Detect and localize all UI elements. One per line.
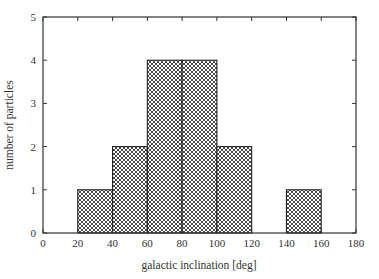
y-tick-label: 3 bbox=[31, 97, 37, 109]
histogram-bar bbox=[217, 147, 252, 233]
x-tick-label: 160 bbox=[313, 237, 330, 249]
x-tick-label: 40 bbox=[107, 237, 119, 249]
histogram-bars bbox=[78, 60, 321, 233]
histogram-chart: 020406080100120140160180 012345 galactic… bbox=[0, 0, 379, 279]
x-tick-label: 60 bbox=[142, 237, 154, 249]
y-tick-label: 2 bbox=[31, 141, 37, 153]
x-tick-label: 100 bbox=[209, 237, 226, 249]
x-tick-label: 180 bbox=[348, 237, 365, 249]
x-tick-labels: 020406080100120140160180 bbox=[40, 237, 365, 249]
histogram-bar bbox=[78, 190, 113, 233]
y-axis-label: number of particles bbox=[3, 80, 16, 170]
histogram-bar bbox=[286, 190, 321, 233]
y-tick-label: 5 bbox=[31, 11, 37, 23]
x-tick-label: 20 bbox=[72, 237, 84, 249]
y-tick-label: 1 bbox=[31, 184, 37, 196]
y-tick-labels: 012345 bbox=[31, 11, 37, 239]
histogram-bar bbox=[147, 60, 182, 233]
x-axis-label: galactic inclination [deg] bbox=[142, 259, 257, 272]
histogram-bar bbox=[182, 60, 217, 233]
x-tick-label: 120 bbox=[243, 237, 260, 249]
y-tick-label: 4 bbox=[31, 54, 37, 66]
histogram-bar bbox=[113, 147, 148, 233]
x-tick-label: 0 bbox=[40, 237, 46, 249]
x-tick-label: 140 bbox=[278, 237, 295, 249]
y-tick-label: 0 bbox=[31, 227, 37, 239]
x-tick-label: 80 bbox=[177, 237, 189, 249]
